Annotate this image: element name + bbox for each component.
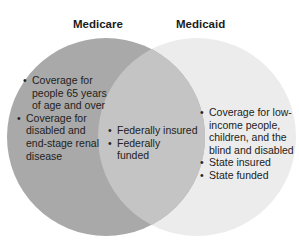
medicaid-list: Coverage for low-income people, children… <box>200 106 296 182</box>
medicaid-item: State funded <box>200 169 296 182</box>
medicaid-item-text: Coverage for low-income people, children… <box>209 106 294 156</box>
medicare-list: Coverage for people 65 years of age and … <box>23 74 115 162</box>
medicaid-item-text: State funded <box>209 169 269 181</box>
overlap-item: Federally insured <box>108 124 200 137</box>
overlap-list: Federally insured Federally funded <box>108 124 200 162</box>
medicare-item-text: Coverage for people 65 years of age and … <box>32 74 107 111</box>
medicare-item: Coverage for people 65 years of age and … <box>23 74 112 112</box>
medicaid-item: State insured <box>200 156 296 169</box>
medicaid-item-text: State insured <box>209 156 271 168</box>
overlap-item-text: Federally funded <box>117 137 160 162</box>
medicaid-item: Coverage for low-income people, children… <box>200 106 296 156</box>
medicare-item: Coverage for disabled and end-stage rena… <box>17 112 106 162</box>
overlap-item: Federally funded <box>108 137 169 162</box>
medicaid-title: Medicaid <box>176 18 225 30</box>
medicare-title: Medicare <box>73 18 123 30</box>
overlap-item-text: Federally insured <box>117 124 198 136</box>
medicare-item-text: Coverage for disabled and end-stage rena… <box>26 112 99 162</box>
